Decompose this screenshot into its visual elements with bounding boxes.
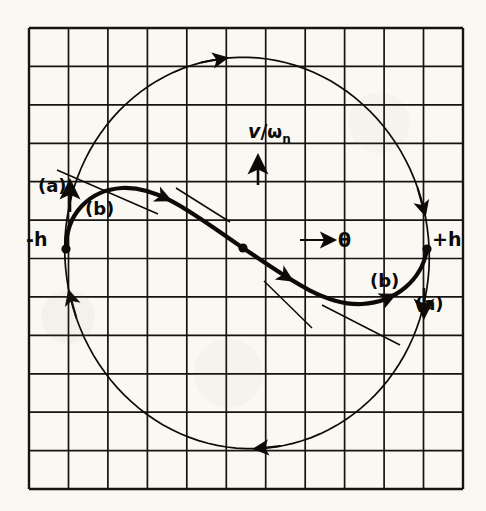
label-vwn-denominator: ω	[267, 122, 282, 142]
label-vwn-subscript: n	[282, 132, 291, 146]
label-theta-axis: θ	[338, 231, 351, 250]
label-vwn-numerator: v	[248, 120, 260, 142]
label-curve-a-right: (a)	[415, 295, 444, 313]
label-curve-a-left: (a)	[38, 177, 67, 195]
label-curve-b-right: (b)	[370, 272, 399, 290]
tangent-lower-right	[322, 305, 400, 345]
curves-layer	[57, 57, 432, 448]
limit-cycle-direction-arrows	[69, 58, 425, 449]
label-v-over-omega-n: v/ωn	[248, 122, 291, 145]
axis-direction-arrows	[258, 157, 334, 240]
point-minus-h	[61, 244, 70, 253]
limit-cycle-arrow	[201, 58, 226, 63]
label-curve-b-left: (b)	[85, 200, 114, 218]
grid-lines	[29, 28, 463, 489]
label-minus-h: -h	[26, 230, 47, 249]
phase-plane-plot	[0, 0, 486, 511]
limit-cycle-arrow	[69, 292, 76, 318]
point-plus-h	[422, 244, 431, 253]
tangent-upper-mid	[176, 188, 230, 222]
figure-canvas: -h +h θ (a) (b) (b) (a) v/ωn	[0, 0, 486, 511]
limit-cycle-arrow	[255, 446, 280, 449]
label-plus-h: +h	[432, 230, 461, 249]
point-origin	[238, 243, 247, 252]
